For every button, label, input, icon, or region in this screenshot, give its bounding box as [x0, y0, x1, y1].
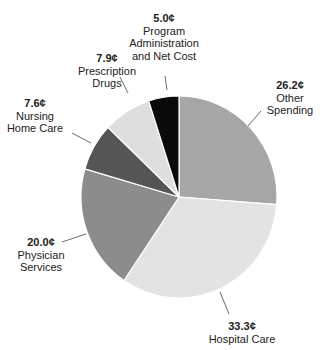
label-hospital-value: 33.3¢ — [200, 320, 284, 333]
pie-slices — [81, 96, 277, 298]
label-drugs: 7.9¢ Prescription Drugs — [72, 52, 142, 90]
label-hospital: 33.3¢ Hospital Care — [200, 320, 284, 345]
leader-line-admin — [165, 76, 167, 90]
label-drugs-value: 7.9¢ — [72, 52, 142, 65]
label-nursing: 7.6¢ Nursing Home Care — [2, 97, 68, 135]
label-physician: 20.0¢ Physician Services — [10, 236, 72, 274]
label-physician-value: 20.0¢ — [10, 236, 72, 249]
leader-line-nursing — [72, 133, 91, 143]
label-other: 26.2¢ Other Spending — [260, 79, 320, 117]
label-other-value: 26.2¢ — [260, 79, 320, 92]
label-nursing-value: 7.6¢ — [2, 97, 68, 110]
leader-line-hospital — [220, 292, 229, 314]
label-admin-value: 5.0¢ — [119, 12, 209, 25]
